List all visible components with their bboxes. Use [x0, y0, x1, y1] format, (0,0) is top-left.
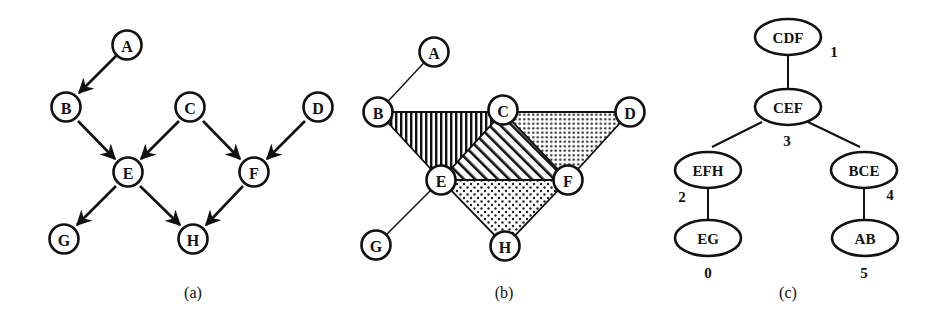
clique-index: 1: [830, 44, 838, 60]
node-label: H: [187, 232, 200, 249]
clique-label: AB: [855, 231, 876, 247]
clique-label: CDF: [773, 30, 804, 46]
edge-e-to-h: [140, 186, 180, 225]
clique-label: EFH: [693, 163, 724, 179]
clique-label: CEF: [773, 100, 803, 116]
node-label: G: [370, 238, 383, 255]
node-label: D: [312, 100, 324, 117]
node-d: D: [616, 98, 645, 127]
caption-c: (c): [779, 284, 797, 302]
node-label: H: [499, 239, 512, 256]
panel-c-cliques: CDF 1 CEF 3 EFH 2 BCE 4 EG 0: [675, 19, 898, 281]
node-label: C: [497, 103, 509, 120]
edge-d-to-f: [267, 121, 305, 159]
node-e: E: [427, 166, 456, 195]
node-f: F: [240, 158, 269, 187]
node-label: B: [373, 105, 384, 122]
clique-node-cdf: CDF 1: [755, 19, 838, 60]
node-b: B: [52, 93, 81, 122]
node-a: A: [113, 31, 142, 60]
node-h: H: [179, 225, 208, 254]
node-c: C: [176, 93, 205, 122]
node-c: C: [489, 96, 518, 125]
figure-canvas: A B C D E F G H (a) A B C D E F: [0, 0, 946, 324]
node-label: E: [123, 165, 134, 182]
node-label: F: [249, 165, 259, 182]
clique-index: 4: [886, 187, 894, 203]
edge-e-to-g: [77, 186, 116, 225]
node-label: A: [121, 38, 133, 55]
clique-node-eg: EG 0: [675, 220, 741, 281]
edge-c-to-e: [141, 121, 179, 159]
node-e: E: [114, 158, 143, 187]
clique-index: 0: [704, 265, 712, 281]
node-label: B: [61, 100, 72, 117]
node-g: G: [362, 231, 391, 260]
node-b: B: [364, 98, 393, 127]
clique-label: EG: [697, 231, 719, 247]
node-label: E: [436, 173, 447, 190]
clique-node-ab: AB 5: [832, 220, 898, 281]
panel-b-clique-regions: [378, 112, 630, 246]
caption-b: (b): [495, 284, 514, 302]
node-label: F: [563, 173, 573, 190]
edge-a-to-b: [79, 56, 116, 93]
edge-f-to-h: [206, 186, 243, 225]
edge-cef-bce: [808, 122, 860, 147]
clique-index: 3: [783, 133, 791, 149]
node-a: A: [420, 38, 449, 67]
clique-node-cef: CEF 3: [755, 89, 821, 149]
clique-index: 2: [678, 189, 686, 205]
panel-c-junction-tree: CDF 1 CEF 3 EFH 2 BCE 4 EG 0: [675, 19, 898, 302]
caption-a: (a): [184, 284, 202, 302]
panel-a-nodes: A B C D E F G H: [50, 31, 333, 254]
edge-c-to-f: [203, 121, 240, 159]
node-g: G: [50, 225, 79, 254]
node-label: A: [428, 45, 440, 62]
panel-b-clique-graph: A B C D E F G H (b): [362, 38, 645, 302]
clique-label: BCE: [849, 163, 880, 179]
panel-a-directed-graph: A B C D E F G H (a): [50, 31, 333, 302]
edge-b-to-e: [78, 121, 115, 159]
node-h: H: [491, 232, 520, 261]
node-f: F: [554, 166, 583, 195]
node-label: C: [184, 100, 196, 117]
node-d: D: [304, 93, 333, 122]
panel-a-edges: [77, 56, 305, 225]
edge-cef-efh: [712, 122, 762, 147]
node-label: D: [624, 105, 636, 122]
node-label: G: [58, 232, 71, 249]
clique-index: 5: [860, 265, 868, 281]
